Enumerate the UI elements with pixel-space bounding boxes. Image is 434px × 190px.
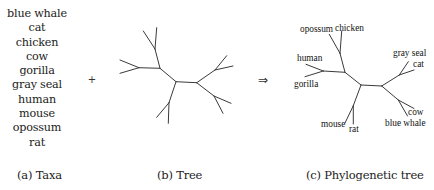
leaf-label-blue-whale: blue whale bbox=[385, 118, 426, 128]
leaf-label-rat: rat bbox=[349, 124, 359, 134]
leaf-label-gray-seal: gray seal bbox=[393, 48, 426, 58]
unlabeled-tree-edges bbox=[120, 28, 233, 124]
leaf-label-mouse: mouse bbox=[321, 119, 345, 129]
unlabeled-tree-diagram bbox=[0, 0, 434, 190]
leaf-label-cow: cow bbox=[408, 107, 424, 117]
caption-taxa: (a) Taxa bbox=[17, 168, 62, 182]
caption-tree: (b) Tree bbox=[157, 168, 202, 182]
leaf-label-chicken: chicken bbox=[335, 23, 364, 33]
leaf-label-human: human bbox=[297, 53, 322, 63]
caption-phylogenetic-tree: (c) Phylogenetic tree bbox=[306, 168, 424, 182]
leaf-label-opossum: opossum bbox=[300, 24, 333, 34]
phylogenetic-tree-edges bbox=[305, 31, 414, 124]
leaf-label-gorilla: gorilla bbox=[294, 79, 318, 89]
leaf-label-cat: cat bbox=[413, 59, 424, 69]
